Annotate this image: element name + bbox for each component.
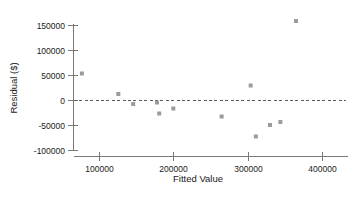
data-point-marker bbox=[131, 102, 135, 106]
data-point-marker bbox=[268, 123, 272, 127]
data-point-marker bbox=[249, 84, 253, 88]
y-tick-label: 150000 bbox=[37, 21, 66, 31]
data-point-marker bbox=[157, 112, 161, 116]
data-point-marker bbox=[80, 72, 84, 76]
data-point-marker bbox=[220, 115, 224, 119]
data-point-marker bbox=[278, 120, 282, 124]
residual-scatter-plot: -100000-50000050000100000150000 Residual… bbox=[0, 0, 356, 199]
data-point-marker bbox=[294, 19, 298, 23]
y-tick-label: 0 bbox=[60, 96, 65, 106]
y-tick-label: 50000 bbox=[41, 71, 65, 81]
y-axis-title: Residual ($) bbox=[8, 62, 19, 113]
y-tick-label: -50000 bbox=[39, 121, 66, 131]
y-tick-label: -100000 bbox=[34, 146, 65, 156]
data-point-marker bbox=[155, 101, 159, 105]
x-axis-title: Fitted Value bbox=[173, 173, 223, 184]
x-tick-label: 100000 bbox=[85, 164, 114, 174]
x-tick-label: 300000 bbox=[234, 164, 263, 174]
data-point-marker bbox=[116, 92, 120, 96]
data-point-marker bbox=[171, 107, 175, 111]
y-tick-label: 100000 bbox=[37, 46, 66, 56]
x-tick-label: 400000 bbox=[308, 164, 337, 174]
data-point-marker bbox=[254, 135, 258, 139]
chart-canvas: -100000-50000050000100000150000 Residual… bbox=[0, 0, 356, 199]
